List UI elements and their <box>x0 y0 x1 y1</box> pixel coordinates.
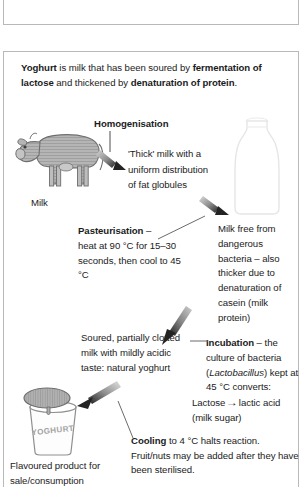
pasteurisation-detail: heat at 90 °C for 15–30 seconds, then co… <box>78 240 181 281</box>
intro-bold2: denaturation of protein <box>131 77 235 88</box>
yoghurt-pot-illustration: YOGHURT <box>16 385 90 461</box>
pasteurisation-label: Pasteurisation <box>78 225 143 236</box>
diagram-page: Yoghurt is milk that has been soured by … <box>0 0 301 487</box>
cooling-label: Cooling <box>131 435 166 446</box>
homogenisation-label: Homogenisation <box>94 118 168 131</box>
reaction-right: lactic acid <box>239 397 281 408</box>
milk-bottle-illustration <box>228 116 286 222</box>
incubation-reaction: Lactose→lactic acid (milk sugar) <box>192 396 300 426</box>
incubation-organism: Lactobacillus <box>209 367 264 378</box>
incubation-block: Incubation – the culture of bacteria (La… <box>206 336 301 395</box>
cooling-result: Flavoured product for sale/consumption <box>10 459 125 487</box>
pasteurisation-result: Milk free from dangerous bacteria – also… <box>218 222 298 326</box>
intro-paragraph: Yoghurt is milk that has been soured by … <box>21 61 289 90</box>
cow-illustration <box>14 122 110 198</box>
intro-part1: is milk that has been soured by <box>57 62 193 73</box>
reaction-arrow-icon: → <box>224 396 241 411</box>
cooling-block: Cooling to 4 °C halts reaction. Fruit/nu… <box>131 434 301 478</box>
reaction-line: Lactose→lactic acid <box>192 396 300 411</box>
incubation-result: Soured, partially clotted milk with mild… <box>81 331 191 375</box>
homogenisation-result: 'Thick' milk with a uniform distribution… <box>128 146 210 193</box>
incubation-label: Incubation <box>206 337 254 348</box>
intro-lead: Yoghurt <box>21 62 57 73</box>
pasteurisation-dash: – <box>143 225 151 236</box>
intro-part2: and thickened by <box>54 77 131 88</box>
reaction-left: Lactose <box>192 397 225 408</box>
intro-end: . <box>235 77 238 88</box>
reaction-note: (milk sugar) <box>192 411 300 426</box>
top-empty-panel <box>3 0 299 25</box>
pasteurisation-block: Pasteurisation – heat at 90 °C for 15–30… <box>78 224 186 283</box>
cow-caption: Milk <box>31 197 48 210</box>
